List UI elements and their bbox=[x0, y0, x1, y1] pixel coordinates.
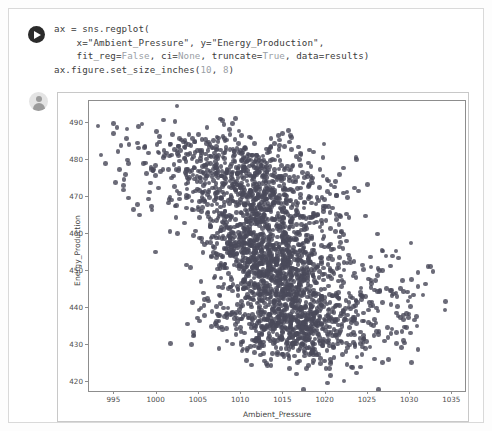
scatter-point bbox=[193, 139, 198, 144]
scatter-point bbox=[404, 325, 409, 330]
y-tick-label: 490 bbox=[59, 118, 83, 127]
scatter-point bbox=[330, 257, 335, 262]
scatter-point bbox=[227, 127, 232, 132]
scatter-point bbox=[238, 222, 243, 227]
scatter-point bbox=[202, 171, 207, 176]
scatter-point bbox=[406, 299, 411, 304]
scatter-point bbox=[195, 148, 200, 153]
scatter-point bbox=[241, 213, 246, 218]
code-line: fit_reg=False, ci=None, truncate=True, d… bbox=[54, 49, 369, 63]
scatter-point bbox=[328, 300, 333, 305]
scatter-point bbox=[315, 213, 320, 218]
scatter-point bbox=[443, 308, 448, 313]
code-source[interactable]: ax = sns.regplot( x="Ambient_Pressure", … bbox=[54, 22, 369, 76]
scatter-point bbox=[423, 282, 428, 287]
scatter-point bbox=[213, 321, 218, 326]
scatter-point bbox=[401, 313, 406, 318]
scatter-point bbox=[320, 229, 325, 234]
scatter-point bbox=[218, 148, 223, 153]
x-tick-mark bbox=[198, 391, 199, 394]
scatter-point bbox=[171, 174, 176, 179]
scatter-point bbox=[202, 313, 207, 318]
scatter-point bbox=[203, 152, 208, 157]
scatter-point bbox=[380, 268, 385, 273]
scatter-point bbox=[266, 272, 271, 277]
scatter-point bbox=[277, 138, 282, 143]
scatter-point bbox=[195, 187, 200, 192]
run-play-icon[interactable] bbox=[28, 26, 45, 43]
scatter-point bbox=[212, 276, 217, 281]
scatter-point bbox=[175, 104, 180, 109]
scatter-point bbox=[230, 249, 235, 254]
scatter-point bbox=[409, 360, 414, 365]
scatter-point bbox=[294, 292, 299, 297]
scatter-point bbox=[307, 148, 312, 153]
scatter-point bbox=[125, 127, 130, 132]
scatter-point bbox=[308, 195, 313, 200]
scatter-point bbox=[347, 300, 352, 305]
scatter-point bbox=[199, 209, 204, 214]
scatter-point bbox=[279, 322, 284, 327]
scatter-point bbox=[223, 247, 228, 252]
scatter-point bbox=[306, 267, 311, 272]
scatter-point bbox=[245, 232, 250, 237]
scatter-point bbox=[191, 233, 196, 238]
scatter-point bbox=[264, 224, 269, 229]
scatter-point bbox=[309, 304, 314, 309]
scatter-point bbox=[363, 214, 368, 219]
scatter-point bbox=[293, 332, 298, 337]
scatter-point bbox=[279, 310, 284, 315]
scatter-point bbox=[244, 358, 249, 363]
scatter-point bbox=[338, 240, 343, 245]
scatter-point bbox=[382, 339, 387, 344]
scatter-point bbox=[173, 119, 178, 124]
scatter-point bbox=[368, 255, 373, 260]
scatter-point bbox=[257, 274, 262, 279]
scatter-point bbox=[368, 345, 373, 350]
scatter-point bbox=[234, 210, 239, 215]
scatter-point bbox=[197, 308, 202, 313]
scatter-point bbox=[222, 314, 227, 319]
scatter-point bbox=[205, 125, 210, 130]
scatter-point bbox=[338, 274, 343, 279]
scatter-point bbox=[286, 212, 291, 217]
scatter-point bbox=[313, 342, 318, 347]
scatter-point bbox=[126, 161, 131, 166]
scatter-point bbox=[282, 355, 287, 360]
scatter-point bbox=[269, 144, 274, 149]
scatter-point bbox=[395, 304, 400, 309]
scatter-point bbox=[280, 334, 285, 339]
scatter-point bbox=[272, 141, 277, 146]
scatter-point bbox=[252, 350, 257, 355]
scatter-point bbox=[283, 224, 288, 229]
scatter-point bbox=[186, 180, 191, 185]
scatter-point bbox=[360, 352, 365, 357]
x-tick-mark bbox=[240, 391, 241, 394]
scatter-point bbox=[296, 175, 301, 180]
scatter-point bbox=[267, 275, 272, 280]
code-cell[interactable]: ax = sns.regplot( x="Ambient_Pressure", … bbox=[19, 17, 469, 85]
scatter-point bbox=[135, 141, 140, 146]
scatter-point bbox=[302, 200, 307, 205]
scatter-point bbox=[137, 213, 142, 218]
scatter-point bbox=[269, 252, 274, 257]
scatter-point bbox=[394, 341, 399, 346]
x-tick-label: 995 bbox=[96, 395, 130, 404]
scatter-point bbox=[359, 286, 364, 291]
scatter-point bbox=[336, 339, 341, 344]
scatter-point bbox=[400, 329, 405, 334]
y-tick-mark bbox=[85, 344, 88, 345]
scatter-point bbox=[369, 265, 374, 270]
scatter-point bbox=[302, 354, 307, 359]
scatter-point bbox=[224, 148, 229, 153]
scatter-point bbox=[168, 341, 173, 346]
scatter-point bbox=[280, 210, 285, 215]
scatter-point bbox=[234, 332, 239, 337]
scatter-point bbox=[119, 143, 124, 148]
scatter-point bbox=[214, 173, 219, 178]
scatter-point bbox=[307, 221, 312, 226]
scatter-point bbox=[355, 355, 360, 360]
scatter-point bbox=[144, 171, 149, 176]
scatter-point bbox=[337, 296, 342, 301]
scatter-point bbox=[428, 264, 433, 269]
